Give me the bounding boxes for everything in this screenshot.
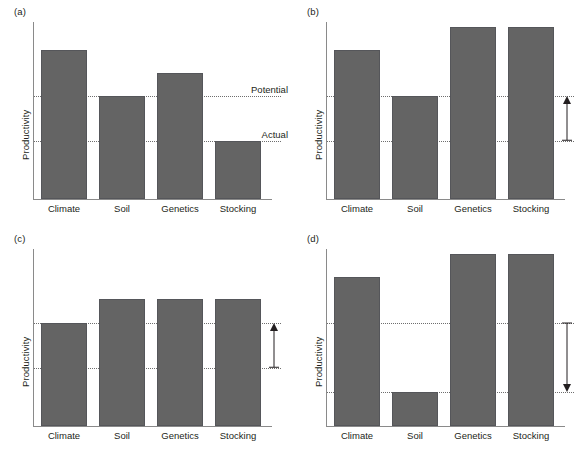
x-axis-line: [33, 426, 272, 427]
bar-climate: [334, 50, 380, 199]
y-axis-label: Productivity: [20, 110, 31, 160]
y-axis-label: Productivity: [20, 337, 31, 387]
chart-panel-d: (d)ProductivityClimateSoilGeneticsStocki…: [293, 227, 585, 454]
chart-panel-c: (c)ProductivityClimateSoilGeneticsStocki…: [0, 227, 292, 454]
y-axis-line: [33, 22, 34, 199]
bar-stocking: [508, 254, 554, 426]
category-label-stocking: Stocking: [494, 203, 568, 214]
x-axis-line: [33, 199, 272, 200]
y-axis-label: Productivity: [313, 110, 324, 160]
bar-genetics: [157, 299, 203, 426]
panel-label-a: (a): [14, 6, 26, 17]
y-axis-line: [326, 249, 327, 426]
bar-climate: [41, 50, 87, 199]
chart-panel-a: (a)ProductivityPotentialActualClimateSoi…: [0, 0, 292, 227]
bar-genetics: [157, 73, 203, 199]
annotation-arrow-up: [557, 86, 577, 150]
bar-soil: [392, 96, 438, 199]
bar-genetics: [450, 254, 496, 426]
y-axis-line: [33, 249, 34, 426]
bar-soil: [99, 299, 145, 426]
bar-stocking: [215, 299, 261, 426]
bar-stocking: [508, 27, 554, 199]
bar-stocking: [215, 141, 261, 199]
bar-genetics: [450, 27, 496, 199]
y-axis-line: [326, 22, 327, 199]
annotation-arrow-up: [264, 313, 284, 377]
panel-label-b: (b): [307, 6, 319, 17]
bar-climate: [334, 277, 380, 426]
chart-panel-b: (b)ProductivityClimateSoilGeneticsStocki…: [293, 0, 585, 227]
category-label-stocking: Stocking: [201, 430, 275, 441]
bar-climate: [41, 323, 87, 426]
figure-root: (a)ProductivityPotentialActualClimateSoi…: [0, 0, 585, 454]
panel-label-d: (d): [307, 233, 319, 244]
x-axis-line: [326, 199, 565, 200]
panel-label-c: (c): [14, 233, 26, 244]
y-axis-label: Productivity: [313, 337, 324, 387]
x-axis-line: [326, 426, 565, 427]
reference-label-potential: Potential: [218, 84, 288, 95]
bar-soil: [99, 96, 145, 199]
reference-label-actual: Actual: [218, 129, 288, 140]
bar-soil: [392, 392, 438, 426]
category-label-stocking: Stocking: [201, 203, 275, 214]
category-label-stocking: Stocking: [494, 430, 568, 441]
annotation-arrow-down: [557, 313, 577, 402]
